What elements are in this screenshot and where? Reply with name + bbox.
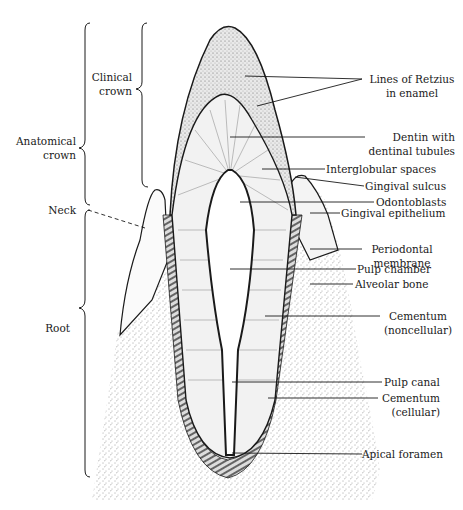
label-line: (cellular) bbox=[378, 405, 440, 419]
label-lines-of-retzius: Lines of Retzius in enamel bbox=[362, 72, 462, 100]
brace-clinical-crown bbox=[136, 23, 148, 187]
label-pulp-canal: Pulp canal bbox=[384, 375, 440, 389]
label-line: Cementum bbox=[378, 391, 440, 405]
label-line: Clinical bbox=[88, 70, 132, 84]
brace-anatomical-crown bbox=[79, 23, 90, 205]
label-cementum-noncellular: Cementum (noncellular) bbox=[378, 309, 458, 337]
label-line: (noncellular) bbox=[378, 323, 458, 337]
label-line: Anatomical bbox=[10, 134, 76, 148]
label-line: dentinal tubules bbox=[345, 144, 455, 158]
label-neck: Neck bbox=[30, 203, 76, 217]
label-interglobular-spaces: Interglobular spaces bbox=[326, 162, 436, 176]
label-dentin: Dentin with dentinal tubules bbox=[345, 130, 455, 158]
label-gingival-sulcus: Gingival sulcus bbox=[365, 179, 446, 193]
label-gingival-epithelium: Gingival epithelium bbox=[341, 206, 445, 220]
label-apical-foramen: Apical foramen bbox=[362, 447, 443, 461]
label-cementum-cellular: Cementum (cellular) bbox=[378, 391, 440, 419]
brace-root bbox=[79, 210, 90, 477]
label-line: Dentin with bbox=[345, 130, 455, 144]
label-line: Cementum bbox=[378, 309, 458, 323]
label-alveolar-bone: Alveolar bone bbox=[355, 277, 428, 291]
label-line: crown bbox=[10, 148, 76, 162]
label-line: in enamel bbox=[362, 86, 462, 100]
label-anatomical-crown: Anatomical crown bbox=[10, 134, 76, 162]
label-root: Root bbox=[30, 321, 70, 335]
label-line: Periodontal bbox=[362, 242, 442, 256]
label-line: Lines of Retzius bbox=[362, 72, 462, 86]
tooth-anatomy-diagram: Clinical crown Anatomical crown Neck Roo… bbox=[0, 0, 463, 510]
label-pulp-chamber: Pulp chamber bbox=[357, 262, 431, 276]
neck-dashed-line bbox=[88, 210, 145, 228]
label-line: crown bbox=[88, 84, 132, 98]
label-clinical-crown: Clinical crown bbox=[88, 70, 132, 98]
